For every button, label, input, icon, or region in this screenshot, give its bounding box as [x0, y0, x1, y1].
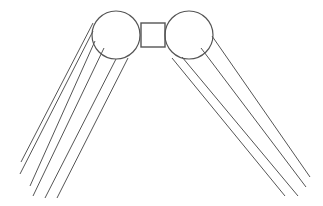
- left-line-bundle: [20, 23, 128, 198]
- left-line-6: [57, 58, 128, 198]
- left-line-2: [20, 31, 93, 174]
- right-line-2: [182, 57, 298, 196]
- right-circle-node: [165, 11, 213, 59]
- right-line-bundle: [172, 36, 310, 196]
- center-square-node: [141, 23, 165, 47]
- left-circle-node: [92, 11, 140, 59]
- right-line-3: [201, 48, 306, 187]
- right-line-4: [212, 36, 310, 177]
- right-line-1: [172, 58, 285, 196]
- diagram-canvas: [0, 0, 323, 206]
